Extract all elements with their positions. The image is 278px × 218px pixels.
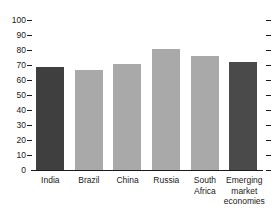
bar-india: [36, 67, 64, 171]
plot-area: 100 90 80 70 60 50 40 30 20 10 0: [0, 0, 278, 218]
bar-slot: [224, 20, 263, 170]
bar-slot: [70, 20, 109, 170]
right-tick-mark: [266, 170, 271, 171]
x-tick-label-india: India: [31, 175, 70, 186]
right-tick-mark: [266, 65, 271, 66]
bar-slot: [147, 20, 186, 170]
x-label-slot: Emerging market economies: [224, 171, 264, 203]
right-tick-mark: [266, 20, 271, 21]
bar-slot: [108, 20, 147, 170]
bars-container: [31, 20, 263, 170]
x-tick-label-emerging-market-economies: Emerging market economies: [222, 175, 266, 207]
x-tick-label-russia: Russia: [147, 175, 186, 186]
y-tick-label: 60: [17, 76, 26, 85]
y-tick-label: 20: [17, 136, 26, 145]
bar-chart: 100 90 80 70 60 50 40 30 20 10 0: [0, 0, 278, 218]
y-tick-label: 80: [17, 46, 26, 55]
bar-emerging-market-economies: [229, 62, 257, 170]
y-tick-label: 50: [17, 91, 26, 100]
bar-brazil: [75, 70, 103, 171]
y-tick-label: 40: [17, 106, 26, 115]
bar-slot: [31, 20, 70, 170]
right-tick-mark: [266, 155, 271, 156]
bar-russia: [152, 49, 180, 171]
right-tick-mark: [266, 110, 271, 111]
y-tick-label: 0: [21, 166, 26, 175]
y-tick-label: 100: [12, 16, 26, 25]
x-tick-label-south-africa: South Africa: [186, 175, 225, 196]
right-tick-mark: [266, 80, 271, 81]
y-tick-label: 30: [17, 121, 26, 130]
footnote-text: ‎: [2, 209, 276, 217]
right-tick-mark: [266, 50, 271, 51]
bar-china: [113, 64, 141, 171]
bar-south-africa: [191, 56, 219, 170]
right-tick-mark: [266, 125, 271, 126]
x-tick-label-brazil: Brazil: [70, 175, 109, 186]
y-tick-label: 10: [17, 151, 26, 160]
right-tick-mark: [266, 95, 271, 96]
right-tick-mark: [266, 140, 271, 141]
right-tick-mark: [266, 35, 271, 36]
x-tick-label-china: China: [108, 175, 147, 186]
y-tick-label: 70: [17, 61, 26, 70]
x-axis-labels: India Brazil China Russia South Africa E…: [31, 171, 263, 213]
bar-slot: [186, 20, 225, 170]
y-tick-label: 90: [17, 31, 26, 40]
